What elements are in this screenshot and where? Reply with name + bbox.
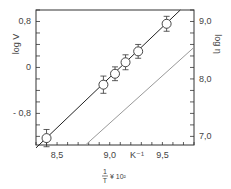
open-circle-marker <box>121 58 130 67</box>
x-tick-label: 8,5 <box>51 150 64 160</box>
data-point <box>42 129 51 146</box>
right-y-tick-label: 9,0 <box>199 16 212 26</box>
x-label-suffix: ¥ 10² <box>110 173 127 180</box>
x-unit-label: K⁻¹ <box>130 150 144 160</box>
left-y-axis-label: log V <box>11 34 21 55</box>
right-y-tick-label: 8,0 <box>199 74 212 84</box>
data-point <box>121 55 130 70</box>
left-y-tick-label: - 0,8 <box>13 108 31 118</box>
x-tick-label: 9,0 <box>103 150 116 160</box>
left-y-tick-label: 0 <box>26 62 31 72</box>
data-point <box>162 16 171 31</box>
right-y-axis-label: log η <box>213 34 223 54</box>
log-eta-line <box>86 47 194 145</box>
open-circle-marker <box>111 69 120 78</box>
open-circle-marker <box>134 47 143 56</box>
right-y-tick-label: 7,0 <box>199 131 212 141</box>
x-label-denominator: T <box>103 177 108 184</box>
right-y-axis-ticks: 9,08,07,0 <box>190 10 212 141</box>
x-label-numerator: 1 <box>103 168 107 175</box>
left-y-tick-label: 0,8 <box>18 16 31 26</box>
data-point <box>134 44 143 58</box>
open-circle-marker <box>162 19 171 28</box>
open-circle-marker <box>99 80 108 89</box>
chart-svg: 8,59,09,5 0,80- 0,8 9,08,07,0 log V log … <box>0 0 231 189</box>
open-circle-marker <box>42 134 51 143</box>
data-point <box>99 76 108 93</box>
data-points <box>42 16 171 146</box>
x-axis-label: 1 T ¥ 10² <box>102 168 127 184</box>
x-tick-label: 9,5 <box>156 150 169 160</box>
